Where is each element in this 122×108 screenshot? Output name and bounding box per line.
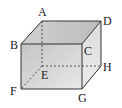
cuboid-diagram: A D B C E H F G	[0, 0, 122, 108]
vertex-label-e: E	[41, 68, 48, 82]
vertex-label-c: C	[84, 44, 92, 58]
vertex-label-f: F	[10, 84, 17, 98]
vertex-label-a: A	[38, 5, 47, 19]
vertex-label-b: B	[10, 38, 18, 52]
vertex-label-g: G	[78, 91, 87, 105]
vertex-label-d: D	[103, 14, 112, 28]
front-face	[21, 44, 82, 89]
vertex-label-h: H	[103, 60, 112, 74]
